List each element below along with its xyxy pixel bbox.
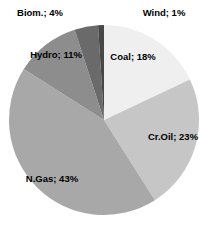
slice-label-hydro: Hydro; 11% (30, 50, 82, 60)
pie-chart: Coal; 18%Cr.Oil; 23%N.Gas; 43%Hydro; 11%… (0, 0, 212, 225)
slice-label-ngas: N.Gas; 43% (26, 174, 78, 184)
pie (0, 0, 212, 225)
slice-label-biom: Biom.; 4% (17, 8, 63, 18)
slice-label-coal: Coal; 18% (110, 52, 155, 62)
slice-label-wind: Wind; 1% (143, 8, 186, 18)
slice-label-croil: Cr.Oil; 23% (148, 132, 198, 142)
